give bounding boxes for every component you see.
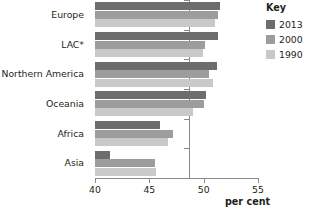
bar bbox=[95, 11, 218, 19]
category-tick bbox=[184, 148, 190, 149]
axis-unit-label: per cent bbox=[225, 196, 270, 207]
bar bbox=[95, 138, 168, 146]
legend-item[interactable]: 1990 bbox=[266, 47, 315, 62]
category-label: Africa bbox=[57, 129, 84, 139]
bar bbox=[95, 130, 173, 138]
bar-chart: EuropeLAC*Northern AmericaOceaniaAfricaA… bbox=[0, 0, 315, 212]
legend-item-label: 1990 bbox=[279, 49, 303, 60]
bar bbox=[95, 91, 206, 99]
category-tick bbox=[184, 89, 190, 90]
bar bbox=[95, 100, 204, 108]
legend-item[interactable]: 2000 bbox=[266, 32, 315, 47]
legend-item-label: 2000 bbox=[279, 34, 303, 45]
category-label: Oceania bbox=[46, 99, 84, 109]
value-tick-label: 40 bbox=[89, 184, 101, 195]
category-tick bbox=[184, 59, 190, 60]
bar bbox=[95, 168, 156, 176]
bar bbox=[95, 19, 215, 27]
bar bbox=[95, 41, 205, 49]
bar bbox=[95, 151, 110, 159]
value-tick bbox=[95, 179, 96, 183]
bar bbox=[95, 121, 160, 129]
legend-entries: 201320001990 bbox=[266, 17, 315, 62]
category-tick bbox=[184, 178, 190, 179]
category-label: Europe bbox=[51, 10, 84, 20]
legend-item[interactable]: 2013 bbox=[266, 17, 315, 32]
category-tick bbox=[184, 119, 190, 120]
bar bbox=[95, 2, 220, 10]
category-label: Northern America bbox=[1, 69, 84, 79]
category-axis: EuropeLAC*Northern AmericaOceaniaAfricaA… bbox=[0, 0, 88, 180]
legend-item-label: 2013 bbox=[279, 19, 303, 30]
value-tick bbox=[149, 179, 150, 183]
chart-legend: Key 201320001990 bbox=[266, 2, 315, 62]
bar bbox=[95, 32, 218, 40]
category-tick bbox=[184, 30, 190, 31]
category-label: LAC* bbox=[61, 40, 84, 50]
legend-title: Key bbox=[266, 2, 315, 14]
category-tick bbox=[184, 0, 190, 1]
bar bbox=[95, 79, 213, 87]
legend-swatch-icon bbox=[266, 50, 275, 59]
bar bbox=[95, 108, 193, 116]
value-tick bbox=[204, 179, 205, 183]
bar bbox=[95, 49, 203, 57]
legend-swatch-icon bbox=[266, 35, 275, 44]
bar bbox=[95, 70, 209, 78]
plot-area: 40455055 bbox=[95, 0, 258, 178]
category-label: Asia bbox=[65, 158, 84, 168]
value-tick-label: 45 bbox=[143, 184, 155, 195]
value-axis-line bbox=[95, 178, 259, 179]
legend-swatch-icon bbox=[266, 20, 275, 29]
value-tick-label: 55 bbox=[252, 184, 264, 195]
value-tick bbox=[258, 179, 259, 183]
bar bbox=[95, 62, 217, 70]
bar bbox=[95, 159, 155, 167]
value-tick-label: 50 bbox=[198, 184, 210, 195]
